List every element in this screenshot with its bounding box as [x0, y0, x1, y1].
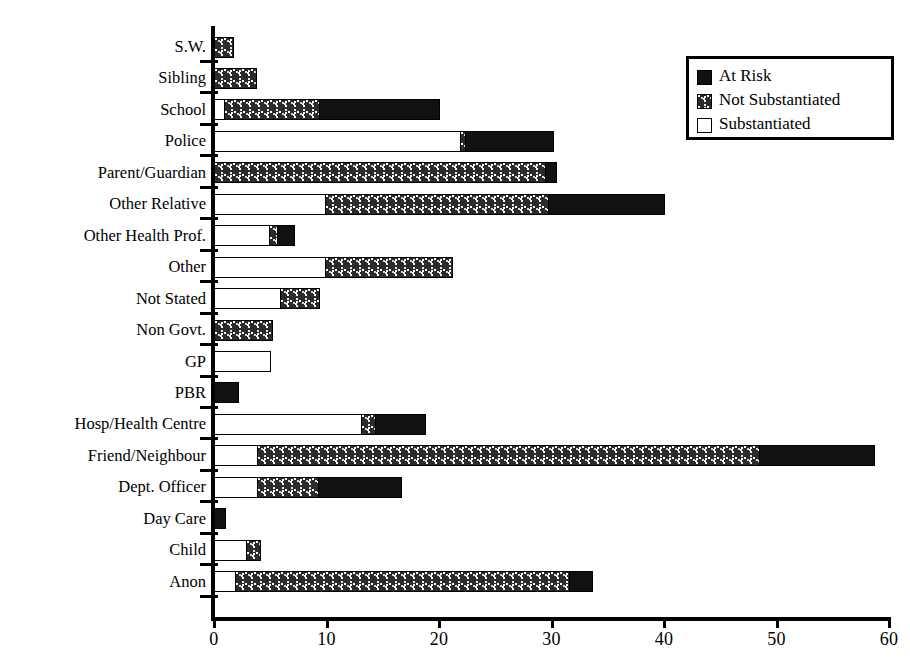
bar-row: [214, 414, 426, 435]
legend-label: At Risk: [719, 65, 771, 87]
x-axis-tick: [438, 617, 441, 628]
x-axis-tick: [663, 617, 666, 628]
bar-row: [214, 288, 320, 309]
bar-segment-not-substantiated: [280, 288, 321, 309]
legend-entry: At Risk: [697, 65, 884, 89]
bar-segment-not-substantiated: [214, 162, 547, 183]
category-label: School: [0, 100, 206, 120]
bar-row: [214, 257, 453, 278]
bar-segment-at-risk: [548, 194, 665, 215]
bar-segment-at-risk: [214, 382, 239, 403]
legend-swatch-not-substantiated-icon: [697, 94, 712, 109]
x-axis-tick: [551, 617, 554, 628]
category-label: Child: [0, 540, 206, 560]
bar-segment-at-risk: [214, 508, 226, 529]
legend-entry: Substantiated: [697, 113, 884, 137]
x-axis-tick: [326, 617, 329, 628]
category-label: Other Relative: [0, 194, 206, 214]
bar-row: [214, 508, 226, 529]
category-label: Other: [0, 257, 206, 277]
legend-label: Not Substantiated: [719, 89, 840, 111]
y-axis-tick: [200, 280, 218, 283]
bar-segment-not-substantiated: [224, 99, 321, 120]
bar-segment-not-substantiated: [325, 194, 550, 215]
y-axis-tick: [200, 91, 218, 94]
x-axis-tick-label: 30: [522, 628, 582, 650]
bar-row: [214, 225, 295, 246]
legend-label: Substantiated: [719, 113, 811, 135]
x-axis-tick-label: 20: [409, 628, 469, 650]
legend-swatch-at-risk-icon: [697, 70, 712, 85]
y-axis-tick: [200, 563, 218, 566]
legend-entry: Not Substantiated: [697, 89, 884, 113]
bar-segment-at-risk: [319, 99, 441, 120]
y-axis-tick: [200, 595, 218, 598]
y-axis-tick: [200, 249, 218, 252]
bar-row: [214, 320, 273, 341]
y-axis-tick: [200, 186, 218, 189]
bar-segment-not-substantiated: [246, 540, 261, 561]
bar-segment-not-substantiated: [214, 320, 273, 341]
bar-segment-substantiated: [214, 571, 237, 592]
x-axis-tick: [888, 617, 891, 628]
category-label: Police: [0, 131, 206, 151]
x-axis-tick: [213, 617, 216, 628]
bar-segment-substantiated: [214, 194, 327, 215]
bar-segment-substantiated: [214, 477, 259, 498]
y-axis-tick: [200, 375, 218, 378]
bar-row: [214, 162, 557, 183]
category-label: Other Health Prof.: [0, 226, 206, 246]
bar-segment-at-risk: [318, 477, 402, 498]
legend-swatch-substantiated-icon: [697, 118, 712, 133]
bar-segment-not-substantiated: [257, 477, 319, 498]
bar-segment-substantiated: [214, 540, 248, 561]
y-axis-tick: [200, 123, 218, 126]
bar-row: [214, 99, 440, 120]
category-label: Non Govt.: [0, 320, 206, 340]
bar-segment-not-substantiated: [235, 571, 570, 592]
bar-segment-at-risk: [375, 414, 426, 435]
bar-segment-substantiated: [214, 257, 327, 278]
bar-segment-at-risk: [277, 225, 295, 246]
bar-row: [214, 37, 234, 58]
bar-row: [214, 194, 665, 215]
bar-segment-at-risk: [465, 131, 554, 152]
x-axis-tick-label: 10: [297, 628, 357, 650]
y-axis-tick: [200, 312, 218, 315]
bar-segment-not-substantiated: [325, 257, 453, 278]
y-axis-tick: [200, 532, 218, 535]
bar-row: [214, 351, 271, 372]
y-axis-tick: [200, 437, 218, 440]
chart-legend: At RiskNot SubstantiatedSubstantiated: [686, 56, 894, 140]
y-axis-tick: [200, 469, 218, 472]
y-axis-tick: [200, 60, 218, 63]
bar-segment-substantiated: [214, 225, 270, 246]
bar-segment-substantiated: [214, 288, 282, 309]
bar-row: [214, 382, 239, 403]
bar-segment-substantiated: [214, 445, 259, 466]
bar-row: [214, 571, 593, 592]
x-axis-tick-label: 0: [184, 628, 244, 650]
y-axis-tick: [200, 217, 218, 220]
category-label: Not Stated: [0, 289, 206, 309]
bar-segment-substantiated: [214, 351, 271, 372]
bar-segment-at-risk: [569, 571, 594, 592]
bar-segment-at-risk: [759, 445, 875, 466]
category-label: Day Care: [0, 509, 206, 529]
y-axis-tick: [200, 343, 218, 346]
bar-row: [214, 68, 257, 89]
bar-row: [214, 477, 402, 498]
bar-segment-at-risk: [545, 162, 556, 183]
stacked-bar-chart: At RiskNot SubstantiatedSubstantiated S.…: [0, 0, 910, 663]
bar-segment-substantiated: [214, 131, 462, 152]
category-label: Parent/Guardian: [0, 163, 206, 183]
bar-segment-not-substantiated: [214, 37, 234, 58]
category-label: Sibling: [0, 68, 206, 88]
category-label: Dept. Officer: [0, 477, 206, 497]
bar-row: [214, 540, 261, 561]
category-label: Hosp/Health Centre: [0, 414, 206, 434]
x-axis-tick-label: 50: [747, 628, 807, 650]
y-axis-tick: [200, 500, 218, 503]
x-axis-tick: [776, 617, 779, 628]
bar-segment-not-substantiated: [257, 445, 760, 466]
